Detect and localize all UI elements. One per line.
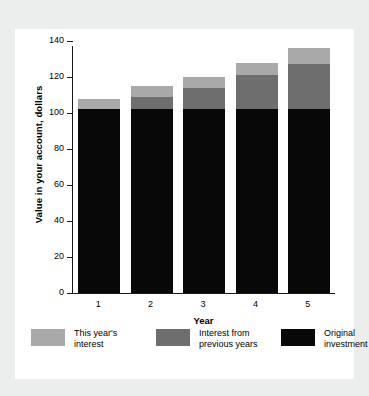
x-tick-label: 3 (182, 299, 224, 309)
legend-item: Interest from previous years (156, 328, 258, 349)
x-axis-line (72, 293, 335, 294)
y-tick (67, 185, 73, 186)
bar-segment-original-investment (78, 109, 120, 293)
bar-segment-this-years-interest (183, 77, 225, 88)
y-tick (67, 257, 73, 258)
x-tick-label: 1 (77, 299, 119, 309)
bar-stack (288, 48, 330, 293)
y-tick (67, 293, 73, 294)
chart-legend: This year's interestInterest from previo… (15, 328, 354, 368)
x-tick-label: 4 (234, 299, 276, 309)
bar-segment-this-years-interest (236, 63, 278, 76)
axes: 020406080100120140 12345 Year (72, 41, 335, 298)
y-tick-label: 40 (36, 216, 64, 225)
plot-area: Value in your account, dollars 020406080… (15, 29, 354, 319)
bar-segment-interest-previous-years (183, 88, 225, 110)
bar-segment-original-investment (183, 109, 225, 293)
y-tick-label: 60 (36, 180, 64, 189)
y-tick-label: 100 (36, 108, 64, 117)
bar-stack (131, 86, 173, 293)
y-axis-title: Value in your account, dollars (33, 70, 44, 240)
bar-segment-original-investment (236, 109, 278, 293)
legend-label: Original investment (324, 328, 368, 349)
y-tick-label: 80 (36, 144, 64, 153)
y-tick-label: 140 (36, 36, 64, 45)
bar-segment-interest-previous-years (131, 97, 173, 110)
legend-label: This year's interest (74, 328, 117, 349)
y-tick (67, 41, 73, 42)
bar-segment-interest-previous-years (288, 64, 330, 109)
bar-segment-this-years-interest (78, 99, 120, 110)
chart-card: Value in your account, dollars 020406080… (15, 29, 354, 379)
bar-segment-this-years-interest (131, 86, 173, 97)
y-tick (67, 77, 73, 78)
chart-page: Value in your account, dollars 020406080… (0, 0, 369, 396)
y-tick-label: 120 (36, 72, 64, 81)
legend-item: Original investment (281, 328, 368, 349)
bar-stack (78, 99, 120, 293)
bar-group (73, 41, 335, 293)
y-tick-label: 0 (36, 288, 64, 297)
mid-gray-swatch (156, 329, 190, 346)
legend-label: Interest from previous years (199, 328, 258, 349)
y-tick (67, 113, 73, 114)
x-tick-label: 2 (130, 299, 172, 309)
bar-segment-original-investment (288, 109, 330, 293)
y-tick (67, 221, 73, 222)
light-gray-swatch (31, 329, 65, 346)
bar-stack (183, 77, 225, 293)
bar-segment-interest-previous-years (236, 75, 278, 109)
legend-item: This year's interest (31, 328, 117, 349)
black-swatch (281, 329, 315, 346)
y-tick-label: 20 (36, 252, 64, 261)
y-tick (67, 149, 73, 150)
bar-segment-this-years-interest (288, 48, 330, 64)
bar-stack (236, 63, 278, 293)
bar-segment-original-investment (131, 109, 173, 293)
x-axis-title: Year (72, 315, 335, 326)
x-tick-label: 5 (287, 299, 329, 309)
